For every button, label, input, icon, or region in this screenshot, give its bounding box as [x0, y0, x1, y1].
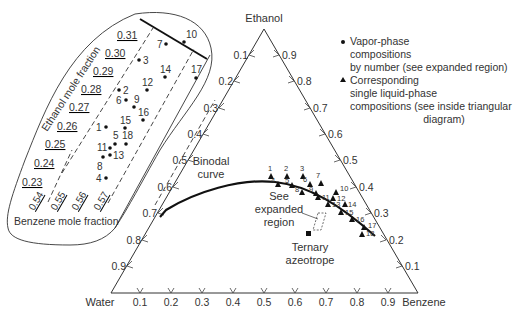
- legend-vapor-text: by number (see expanded region): [350, 61, 508, 73]
- legend-liquid-marker: [340, 77, 346, 82]
- svg-text:3: 3: [300, 164, 304, 173]
- svg-text:15: 15: [120, 115, 132, 126]
- see-expanded-label: region: [264, 216, 295, 228]
- ternary-diagram-figure: Ethanol Water Benzene 0.1 0.2 0.3 0.4 0.…: [0, 0, 520, 313]
- bottom-tick-label: 0.6: [288, 296, 303, 308]
- expanded-leader-line: [302, 213, 318, 219]
- svg-text:10: 10: [186, 29, 198, 40]
- svg-text:16: 16: [356, 215, 364, 224]
- inset-ethanol-tick: 0.29: [93, 65, 114, 77]
- left-tick-label: 0.3: [203, 102, 218, 114]
- vertex-label-benzene: Benzene: [402, 296, 445, 308]
- svg-text:9: 9: [309, 185, 313, 194]
- svg-text:1: 1: [96, 122, 102, 133]
- svg-text:18: 18: [122, 130, 134, 141]
- inset-ethanol-tick: 0.27: [69, 101, 90, 113]
- inset-ethanol-tick: 0.30: [105, 47, 126, 59]
- svg-text:7: 7: [316, 171, 320, 180]
- svg-text:5: 5: [285, 176, 289, 185]
- bottom-axis: [137, 288, 391, 293]
- svg-text:8: 8: [97, 161, 103, 172]
- legend-liquid-text: Corresponding: [350, 74, 419, 86]
- bottom-tick-label: 0.7: [319, 296, 334, 308]
- left-tick-label: 0.1: [233, 49, 248, 61]
- inset-benzene-axis-label: Benzene mole fraction: [14, 215, 119, 227]
- right-tick-label: 0.3: [374, 207, 389, 219]
- vertex-label-water: Water: [86, 296, 115, 308]
- svg-text:16: 16: [138, 107, 150, 118]
- inset-ethanol-tick: 0.26: [57, 120, 78, 132]
- inset-benzene-tick: 0.55: [48, 189, 67, 212]
- bottom-tick-label: 0.3: [195, 296, 210, 308]
- svg-text:17: 17: [191, 64, 203, 75]
- bottom-tick-label: 0.8: [350, 296, 365, 308]
- svg-text:9: 9: [134, 94, 140, 105]
- right-tick-label: 0.8: [297, 75, 312, 87]
- see-expanded-label: See: [269, 190, 289, 202]
- azeotrope-label: Ternary: [292, 241, 329, 253]
- svg-text:13: 13: [113, 150, 125, 161]
- svg-text:12: 12: [142, 77, 154, 88]
- binodal-curve-label: curve: [198, 168, 225, 180]
- right-tick-label: 0.7: [313, 102, 328, 114]
- svg-text:4: 4: [271, 176, 275, 185]
- svg-text:8: 8: [295, 185, 299, 194]
- legend-vapor-marker: [341, 40, 345, 44]
- bottom-tick-label: 0.9: [381, 296, 396, 308]
- svg-text:15: 15: [345, 208, 353, 217]
- right-tick-label: 0.9: [282, 49, 297, 61]
- inset-benzene-tick: 0.54: [26, 189, 45, 212]
- legend-liquid-text: compositions (see inside triangular: [350, 100, 512, 112]
- left-tick-label: 0.8: [126, 234, 141, 246]
- left-tick-label: 0.2: [218, 75, 233, 87]
- legend-vapor-text: Vapor-phase: [350, 35, 410, 47]
- right-tick-label: 0.5: [343, 154, 358, 166]
- inset-ethanol-tick: 0.31: [117, 29, 138, 41]
- legend: Vapor-phase compositions by number (see …: [340, 35, 512, 125]
- right-tick-label: 0.4: [359, 181, 374, 193]
- svg-text:13: 13: [332, 200, 340, 209]
- left-tick-label: 0.5: [172, 154, 187, 166]
- bottom-tick-label: 0.2: [164, 296, 179, 308]
- svg-text:6: 6: [303, 175, 307, 184]
- inset-ethanol-tick: 0.24: [34, 157, 55, 169]
- svg-text:5: 5: [113, 130, 119, 141]
- legend-vapor-text: compositions: [350, 48, 411, 60]
- svg-text:3: 3: [143, 55, 149, 66]
- left-tick-label: 0.4: [187, 128, 202, 140]
- inset-benzene-tick: 0.56: [69, 189, 88, 212]
- svg-text:7: 7: [157, 39, 163, 50]
- right-tick-label: 0.1: [405, 260, 420, 272]
- svg-text:2: 2: [123, 85, 129, 96]
- binodal-curve-label: Binodal: [193, 155, 230, 167]
- legend-liquid-text: single liquid-phase: [350, 87, 437, 99]
- inset-benzene-tick: 0.57: [91, 189, 110, 212]
- inset-ethanol-tick: 0.23: [22, 176, 43, 188]
- bottom-tick-label: 0.4: [226, 296, 241, 308]
- svg-text:1: 1: [268, 164, 272, 173]
- svg-text:11: 11: [97, 142, 108, 153]
- legend-liquid-text: diagram): [423, 113, 464, 125]
- svg-text:18: 18: [366, 229, 374, 238]
- svg-text:14: 14: [160, 64, 172, 75]
- svg-text:6: 6: [116, 95, 122, 106]
- svg-text:11: 11: [322, 193, 330, 202]
- right-tick-label: 0.6: [328, 128, 343, 140]
- inset-ethanol-tick: 0.28: [81, 83, 102, 95]
- right-tick-label: 0.2: [389, 234, 404, 246]
- svg-text:2: 2: [284, 164, 288, 173]
- vertex-label-ethanol: Ethanol: [245, 12, 282, 24]
- bottom-tick-label: 0.1: [133, 296, 148, 308]
- svg-text:4: 4: [96, 173, 102, 184]
- see-expanded-label: expanded: [255, 203, 303, 215]
- inset-ethanol-tick: 0.25: [45, 138, 66, 150]
- azeotrope-marker: [306, 231, 311, 236]
- left-tick-label: 0.7: [142, 207, 157, 219]
- svg-text:10: 10: [340, 184, 348, 193]
- azeotrope-label: azeotrope: [286, 254, 335, 266]
- expanded-region-marker: [313, 213, 326, 230]
- expanded-region-inset: 0.31 0.30 0.29 0.28 0.27 0.26 0.25 0.24 …: [7, 12, 215, 245]
- left-tick-label: 0.9: [111, 260, 126, 272]
- bottom-tick-label: 0.5: [257, 296, 272, 308]
